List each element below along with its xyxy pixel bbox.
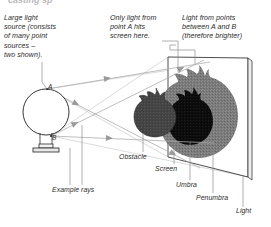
label-point-a: A (48, 83, 52, 90)
light-source-lamp (23, 88, 69, 152)
label-light: Light (236, 206, 251, 215)
label-point-a-note: Only light from point A hits screen here… (110, 14, 156, 42)
shadow-formation-diagram: casting sp (0, 0, 271, 227)
label-penumbra: Penumbra (196, 193, 228, 202)
label-obstacle: Obstacle (119, 152, 147, 161)
label-between-ab-note: Light from points between A and B (there… (182, 14, 242, 42)
label-point-b: B (52, 134, 56, 141)
label-umbra: Umbra (176, 180, 197, 189)
label-example-rays: Example rays (52, 185, 94, 194)
label-screen: Screen (155, 164, 177, 173)
label-light-source: Large light source (consists of many poi… (4, 14, 56, 60)
